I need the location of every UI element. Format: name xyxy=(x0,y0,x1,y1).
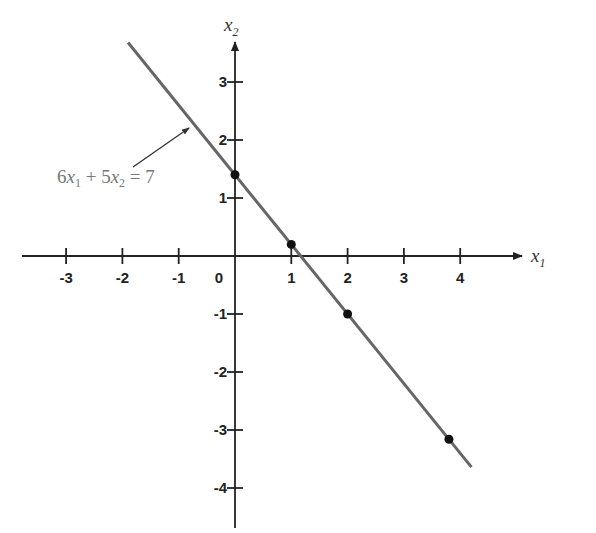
x-tick-label: 4 xyxy=(456,269,465,286)
y-tick-label: -4 xyxy=(214,479,228,496)
data-point xyxy=(231,170,240,179)
x-tick-label: -1 xyxy=(172,269,185,286)
y-axis-label: x2 xyxy=(223,14,238,39)
y-tick-label: -3 xyxy=(214,421,227,438)
y-tick-label: 2 xyxy=(219,131,227,148)
data-point xyxy=(444,435,453,444)
x-axis-ticks: -3-2-101234 xyxy=(59,248,465,286)
x-tick-label: 3 xyxy=(400,269,408,286)
x-tick-label: 2 xyxy=(343,269,351,286)
y-tick-label: -1 xyxy=(214,305,227,322)
chart-plot-area: -3-2-101234 -4-3-2-1123 x1 x2 6x1 + 5x2 … xyxy=(0,0,596,533)
annotation-arrow xyxy=(133,128,189,167)
y-tick-label: -2 xyxy=(214,363,227,380)
x-axis-label: x1 xyxy=(530,245,545,270)
x-tick-label: -2 xyxy=(116,269,129,286)
y-tick-label: 3 xyxy=(219,73,227,90)
data-point xyxy=(343,310,352,319)
equation-annotation: 6x1 + 5x2 = 7 xyxy=(57,166,155,190)
x-tick-label: 1 xyxy=(287,269,295,286)
x-tick-label: -3 xyxy=(59,269,72,286)
y-tick-label: 1 xyxy=(219,189,227,206)
data-point xyxy=(287,240,296,249)
x-tick-label: 0 xyxy=(215,269,223,286)
